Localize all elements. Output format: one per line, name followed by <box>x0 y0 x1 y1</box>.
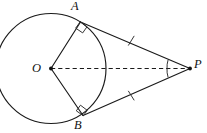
angle-arc-APO <box>167 60 168 68</box>
geometry-figure: O A B P <box>0 0 207 133</box>
angle-arc-BPO <box>167 69 168 78</box>
label-point-B: B <box>74 119 82 132</box>
label-point-P: P <box>194 58 202 71</box>
label-point-O: O <box>32 62 41 75</box>
label-point-A: A <box>71 0 79 13</box>
point-dot-P <box>188 67 192 71</box>
segment-AP <box>81 22 191 69</box>
point-dot-O <box>49 67 53 71</box>
segment-BP <box>83 69 190 116</box>
